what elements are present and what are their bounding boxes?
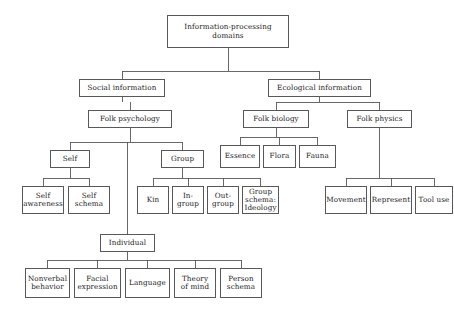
node-facial: Facial expression	[74, 268, 121, 298]
node-nonverbal: Nonverbal behavior	[25, 268, 70, 298]
node-movement: Movement	[325, 186, 367, 214]
node-root: Information-processing domains	[167, 15, 289, 48]
node-person_schema: Person schema	[220, 268, 262, 298]
node-self: Self	[50, 150, 90, 168]
information-processing-domains-diagram: Information-processing domainsSocial inf…	[0, 0, 454, 313]
node-theory_of_mind: Theory of mind	[174, 268, 216, 298]
node-ecological: Ecological information	[268, 79, 371, 97]
node-out_group: Out- group	[207, 186, 239, 214]
node-folk_physics: Folk physics	[347, 110, 412, 128]
node-group: Group	[161, 150, 204, 168]
node-language: Language	[125, 268, 170, 298]
node-social: Social information	[79, 79, 165, 97]
node-folk_psychology: Folk psychology	[88, 110, 172, 128]
node-folk_biology: Folk biology	[243, 110, 309, 128]
node-self_schema: Self schema	[68, 186, 110, 214]
node-in_group: In- group	[172, 186, 204, 214]
node-essence: Essence	[220, 145, 260, 168]
node-tool_use: Tool use	[415, 186, 453, 214]
node-individual: Individual	[100, 234, 155, 252]
node-kin: Kin	[137, 186, 169, 214]
node-flora: Flora	[263, 145, 296, 168]
node-group_schema: Group schema: Ideology	[242, 186, 279, 214]
node-fauna: Fauna	[299, 145, 336, 168]
node-self_awareness: Self awareness	[22, 186, 64, 214]
node-represent: Represent	[370, 186, 412, 214]
